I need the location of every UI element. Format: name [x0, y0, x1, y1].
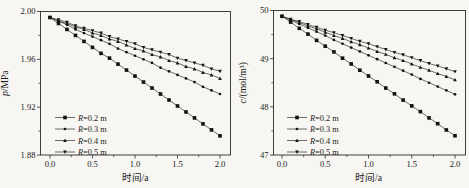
svg-text:1.0: 1.0 [130, 159, 141, 169]
svg-text:R=0.2 m: R=0.2 m [309, 114, 339, 123]
svg-text:c/(mol/m³): c/(mol/m³) [237, 62, 249, 103]
svg-text:0.5: 0.5 [87, 159, 98, 169]
svg-text:p/MPa: p/MPa [0, 70, 10, 97]
svg-text:50: 50 [260, 5, 269, 15]
svg-text:49: 49 [260, 54, 269, 64]
svg-text:R=0.4 m: R=0.4 m [77, 137, 107, 146]
svg-text:1.96: 1.96 [20, 54, 36, 64]
svg-text:0.5: 0.5 [320, 159, 331, 169]
svg-text:1.0: 1.0 [363, 159, 374, 169]
svg-text:47: 47 [260, 150, 269, 160]
svg-text:R=0.3 m: R=0.3 m [309, 125, 339, 134]
pressure-chart-canvas: 0.00.51.01.52.01.881.921.962.00R=0.2 mR=… [0, 0, 235, 188]
svg-text:R=0.5 m: R=0.5 m [77, 148, 107, 157]
svg-text:时间/a: 时间/a [355, 172, 383, 183]
svg-text:时间/a: 时间/a [122, 172, 150, 183]
concentration-chart-canvas: 0.00.51.01.52.047484950R=0.2 mR=0.3 mR=0… [235, 0, 469, 188]
svg-text:1.5: 1.5 [406, 159, 417, 169]
svg-text:R=0.3 m: R=0.3 m [77, 125, 107, 134]
svg-text:48: 48 [260, 102, 269, 112]
svg-text:1.92: 1.92 [20, 102, 35, 112]
svg-text:0.0: 0.0 [277, 159, 288, 169]
pressure-chart: 0.00.51.01.52.01.881.921.962.00R=0.2 mR=… [0, 0, 235, 188]
concentration-chart: 0.00.51.01.52.047484950R=0.2 mR=0.3 mR=0… [235, 0, 469, 188]
dual-line-chart-figure: 0.00.51.01.52.01.881.921.962.00R=0.2 mR=… [0, 0, 469, 188]
svg-text:2.0: 2.0 [215, 159, 226, 169]
svg-text:R=0.4 m: R=0.4 m [309, 137, 339, 146]
svg-text:R=0.2 m: R=0.2 m [77, 114, 107, 123]
svg-text:2.0: 2.0 [450, 159, 461, 169]
svg-text:2.00: 2.00 [20, 6, 35, 16]
svg-text:1.88: 1.88 [20, 150, 35, 160]
svg-text:0.0: 0.0 [45, 159, 56, 169]
svg-text:1.5: 1.5 [172, 159, 183, 169]
svg-text:R=0.5 m: R=0.5 m [309, 148, 339, 157]
